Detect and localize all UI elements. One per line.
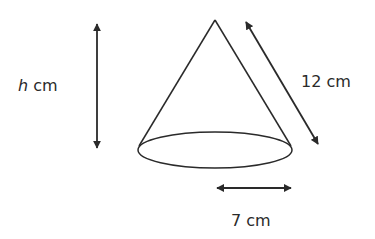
height-variable: h [18, 76, 28, 95]
cone-left-edge [139, 20, 215, 146]
radius-label: 7 cm [231, 213, 271, 229]
cone-right-edge [215, 20, 291, 146]
slant-height-label: 12 cm [301, 74, 351, 90]
cone-figure [0, 0, 375, 239]
height-unit: cm [28, 76, 57, 95]
height-label: h cm [18, 78, 58, 94]
cone-base-ellipse [138, 132, 292, 168]
